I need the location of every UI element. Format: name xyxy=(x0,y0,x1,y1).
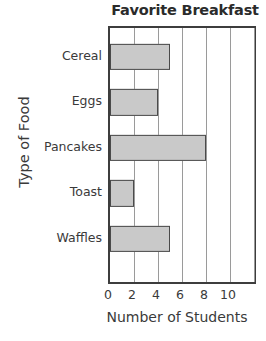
x-tick-label-0: 0 xyxy=(104,287,112,302)
bar-toast xyxy=(110,180,134,206)
y-tick-label-waffles: Waffles xyxy=(24,229,102,244)
bar-chart-figure: Favorite Breakfast Type of Food CerealEg… xyxy=(0,0,266,341)
gridline-12 xyxy=(254,28,255,282)
bar-waffles xyxy=(110,226,170,252)
bar-cereal xyxy=(110,44,170,70)
bar-eggs xyxy=(110,89,158,115)
y-tick-label-toast: Toast xyxy=(24,184,102,199)
plot-area xyxy=(108,26,256,284)
y-tick-label-cereal: Cereal xyxy=(24,47,102,62)
chart-title: Favorite Breakfast xyxy=(106,2,264,18)
x-axis-tick-labels: 0246810 xyxy=(108,287,256,305)
x-tick-label-10: 10 xyxy=(220,287,236,302)
x-tick-label-2: 2 xyxy=(128,287,136,302)
bars-layer xyxy=(110,28,254,282)
x-tick-label-8: 8 xyxy=(200,287,208,302)
y-tick-label-eggs: Eggs xyxy=(24,93,102,108)
y-tick-label-pancakes: Pancakes xyxy=(24,138,102,153)
x-tick-label-6: 6 xyxy=(176,287,184,302)
y-axis-tick-labels: CerealEggsPancakesToastWaffles xyxy=(24,26,102,284)
x-axis-title: Number of Students xyxy=(88,309,266,325)
bar-pancakes xyxy=(110,135,206,161)
x-tick-label-4: 4 xyxy=(152,287,160,302)
